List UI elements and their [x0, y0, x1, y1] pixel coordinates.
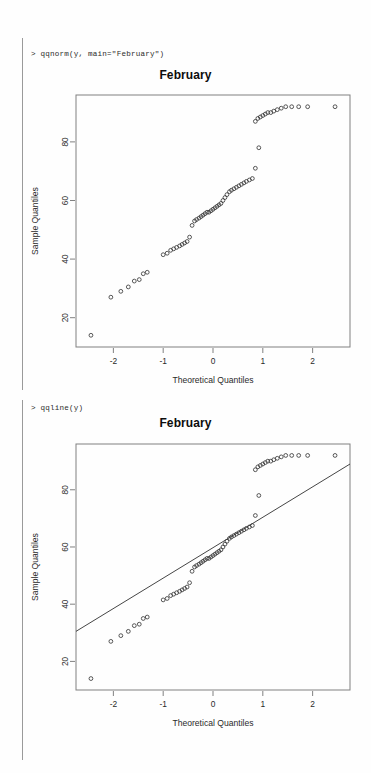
data-point — [141, 272, 145, 276]
qqline-plot-canvas: -2-101220406080Theoretical QuantilesSamp… — [0, 412, 371, 760]
data-point — [290, 454, 294, 458]
data-point — [89, 677, 93, 681]
data-point — [119, 289, 123, 293]
data-point — [333, 105, 337, 109]
data-point — [190, 569, 194, 573]
data-point — [161, 253, 165, 257]
y-tick-label: 60 — [60, 542, 70, 552]
console-command-qqnorm: > qqnorm(y, main="February") — [31, 50, 164, 58]
x-axis-title: Theoretical Quantiles — [172, 375, 253, 385]
y-tick-label: 40 — [60, 254, 70, 264]
data-point — [279, 455, 283, 459]
y-tick-label: 80 — [60, 485, 70, 495]
data-point — [161, 598, 165, 602]
data-point — [290, 105, 294, 109]
x-axis-title: Theoretical Quantiles — [172, 718, 253, 728]
data-point — [132, 624, 136, 628]
x-tick-label: 0 — [211, 356, 216, 366]
data-point — [279, 106, 283, 110]
data-point-group — [89, 105, 337, 337]
data-point — [257, 494, 261, 498]
x-tick-label: 1 — [260, 699, 265, 709]
x-tick-label: 2 — [310, 699, 315, 709]
y-tick-label: 20 — [60, 656, 70, 666]
data-point — [253, 166, 257, 170]
screenshot-page: > qqnorm(y, main="February") > qqline(y)… — [0, 0, 371, 773]
x-tick-label: -1 — [159, 699, 167, 709]
data-point — [141, 617, 145, 621]
x-tick-label: -2 — [110, 356, 118, 366]
console-command-qqline: > qqline(y) — [31, 404, 83, 412]
y-tick-label: 60 — [60, 195, 70, 205]
qqnorm-plot: February -2-101220406080Theoretical Quan… — [0, 60, 371, 390]
data-point — [89, 333, 93, 337]
data-point — [145, 270, 149, 274]
data-point — [119, 634, 123, 638]
data-point — [253, 514, 257, 518]
qqnorm-plot-canvas: -2-101220406080Theoretical QuantilesSamp… — [0, 60, 371, 390]
data-point — [126, 285, 130, 289]
data-point — [145, 615, 149, 619]
data-point — [165, 251, 169, 255]
data-point-group — [89, 454, 337, 681]
data-point — [275, 456, 279, 460]
data-point — [165, 597, 169, 601]
data-point — [284, 105, 288, 109]
data-point — [190, 224, 194, 228]
x-tick-label: 0 — [211, 699, 216, 709]
y-tick-label: 20 — [60, 313, 70, 323]
x-tick-label: 2 — [310, 356, 315, 366]
data-point — [306, 454, 310, 458]
data-point — [188, 581, 192, 585]
x-tick-label: -1 — [159, 356, 167, 366]
data-point — [132, 279, 136, 283]
data-point — [275, 108, 279, 112]
data-point — [137, 622, 141, 626]
data-point — [333, 454, 337, 458]
qqline-plot: February -2-101220406080Theoretical Quan… — [0, 412, 371, 760]
y-axis-title: Sample Quantiles — [30, 533, 40, 601]
qq-reference-line — [76, 464, 350, 631]
data-point — [188, 235, 192, 239]
y-tick-label: 80 — [60, 137, 70, 147]
data-point — [257, 146, 261, 150]
data-point — [297, 105, 301, 109]
data-point — [297, 454, 301, 458]
data-point — [126, 629, 130, 633]
y-tick-label: 40 — [60, 599, 70, 609]
x-tick-label: -2 — [110, 699, 118, 709]
y-axis-title: Sample Quantiles — [30, 187, 40, 255]
data-point — [284, 454, 288, 458]
data-point — [137, 278, 141, 282]
data-point — [109, 639, 113, 643]
x-tick-label: 1 — [260, 356, 265, 366]
data-point — [109, 295, 113, 299]
data-point — [306, 105, 310, 109]
